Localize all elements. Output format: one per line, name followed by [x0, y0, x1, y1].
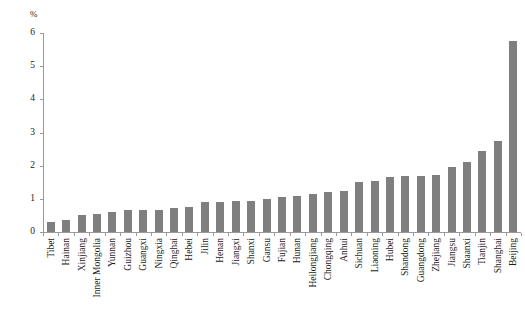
x-tick-label: Chongqing — [321, 238, 336, 328]
x-tick-label: Yunnan — [105, 238, 120, 328]
x-tick-label: Shanxi — [243, 238, 258, 328]
bar-column — [305, 33, 320, 232]
x-tick-label-text: Xinjiang — [77, 238, 87, 271]
x-tick-mark — [428, 233, 429, 236]
bar — [278, 197, 286, 232]
x-tick-label: Heilongjiang — [305, 238, 320, 328]
y-tick-label: 3 — [30, 127, 35, 138]
bar-column — [58, 33, 73, 232]
bar-column — [259, 33, 274, 232]
x-tick-mark — [475, 233, 476, 236]
y-tick-label: 5 — [30, 60, 35, 71]
x-tick-label: Hunan — [290, 238, 305, 328]
x-tick-mark — [459, 233, 460, 236]
bar-column — [89, 33, 104, 232]
bar-column — [120, 33, 135, 232]
bar — [509, 41, 517, 232]
x-tick-mark — [105, 233, 106, 236]
bar-column — [444, 33, 459, 232]
bar — [155, 210, 163, 232]
x-tick-label-text: Shaanxi — [462, 238, 472, 269]
x-tick-mark — [213, 233, 214, 236]
bar-column — [228, 33, 243, 232]
y-axis-unit-label: % — [30, 9, 38, 19]
x-tick-label: Shandong — [398, 238, 413, 328]
bar — [401, 176, 409, 232]
x-tick-label-text: Liaoning — [370, 238, 380, 272]
x-tick-label: Ningxia — [151, 238, 166, 328]
x-tick-label-text: Shandong — [400, 238, 410, 276]
x-tick-label: Qinghai — [166, 238, 181, 328]
bar-column — [459, 33, 474, 232]
x-tick-mark — [367, 233, 368, 236]
x-axis-category-labels: TibetHainanXinjiangInner MongoliaYunnanG… — [43, 238, 521, 328]
bar — [108, 212, 116, 232]
y-tick-label: 0 — [30, 226, 35, 237]
bar-column — [382, 33, 397, 232]
x-tick-label-text: Jiangsu — [447, 238, 457, 267]
x-tick-label: Henan — [213, 238, 228, 328]
bar — [247, 201, 255, 233]
x-tick-label: Tibet — [43, 238, 58, 328]
bar — [324, 192, 332, 232]
x-tick-label-text: Yunnan — [107, 238, 117, 267]
x-tick-mark — [321, 233, 322, 236]
bar-column — [367, 33, 382, 232]
bar — [139, 210, 147, 232]
bar — [93, 214, 101, 232]
x-tick-label: Hainan — [58, 238, 73, 328]
bar-column — [166, 33, 181, 232]
x-tick-mark — [197, 233, 198, 236]
x-tick-label-text: Sichuan — [354, 238, 364, 269]
bar — [386, 177, 394, 232]
x-axis-ticks — [43, 233, 521, 237]
bar — [463, 162, 471, 232]
bar — [170, 208, 178, 232]
x-tick-label-text: Qinghai — [169, 238, 179, 269]
x-tick-label: Jiangsu — [444, 238, 459, 328]
x-tick-label: Anhui — [336, 238, 351, 328]
bar-column — [398, 33, 413, 232]
bar-column — [243, 33, 258, 232]
x-tick-label-text: Henan — [215, 238, 225, 263]
bar — [124, 210, 132, 232]
x-tick-mark — [151, 233, 152, 236]
bar — [201, 202, 209, 232]
x-tick-label: Guizhou — [120, 238, 135, 328]
bar-column — [274, 33, 289, 232]
bar-column — [151, 33, 166, 232]
x-tick-label-text: Hunan — [292, 238, 302, 263]
x-tick-label: Sichuan — [351, 238, 366, 328]
x-tick-label-text: Shanghai — [493, 238, 503, 273]
x-tick-label: Tianjin — [475, 238, 490, 328]
x-tick-label: Hebei — [182, 238, 197, 328]
x-tick-mark — [89, 233, 90, 236]
x-tick-label-text: Shanxi — [246, 238, 256, 264]
bar — [47, 222, 55, 232]
bar — [185, 207, 193, 232]
bar-chart-figure: % 0123456 TibetHainanXinjiangInner Mongo… — [0, 0, 525, 330]
y-tick-label: 4 — [30, 93, 35, 104]
bar-column — [413, 33, 428, 232]
bar-series — [43, 33, 521, 232]
x-tick-mark — [166, 233, 167, 236]
bar — [494, 141, 502, 232]
x-tick-label: Liaoning — [367, 238, 382, 328]
bar — [432, 175, 440, 232]
bar-column — [475, 33, 490, 232]
y-tick-label: 6 — [30, 27, 35, 38]
bar-column — [336, 33, 351, 232]
x-tick-label-text: Jiangxi — [231, 238, 241, 265]
x-tick-mark — [444, 233, 445, 236]
x-tick-label: Guangdong — [413, 238, 428, 328]
x-tick-label-text: Guangdong — [416, 238, 426, 282]
bar — [232, 201, 240, 232]
bar-column — [506, 33, 521, 232]
x-tick-mark — [351, 233, 352, 236]
x-tick-label-text: Jilin — [200, 238, 210, 254]
x-tick-mark — [413, 233, 414, 236]
x-tick-mark — [182, 233, 183, 236]
bar — [216, 202, 224, 233]
x-tick-label-text: Guizhou — [123, 238, 133, 271]
x-tick-mark — [305, 233, 306, 236]
